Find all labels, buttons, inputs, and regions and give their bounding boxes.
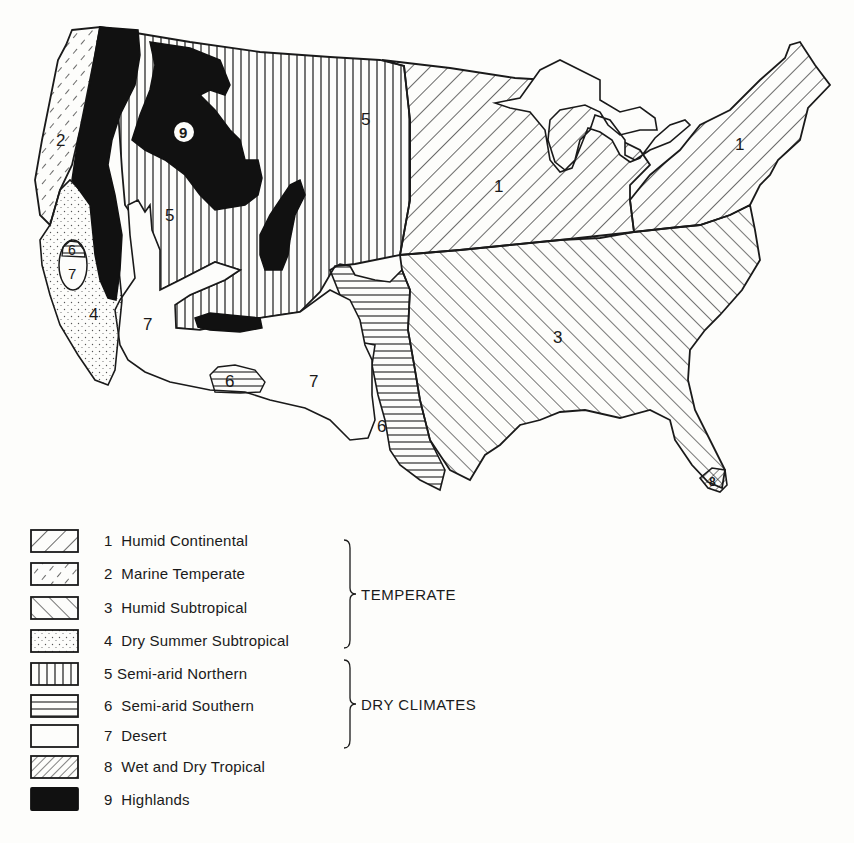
legend-label-semi-arid-southern: 6 Semi-arid Southern: [104, 697, 254, 714]
legend-label-humid-subtropical: 3 Humid Subtropical: [104, 599, 247, 616]
legend-label-dry-summer-subtropical: 4 Dry Summer Subtropical: [104, 632, 289, 649]
semi-arid-northern-swatch-icon: [30, 662, 79, 686]
legend-label-semi-arid-northern: 5 Semi-arid Northern: [104, 665, 247, 682]
label-semi-arid-northern-east: 5: [361, 110, 370, 129]
group-label-dry-climates: DRY CLIMATES: [361, 696, 476, 713]
label-desert-ca: 7: [68, 265, 76, 282]
label-desert-great-basin: 7: [143, 315, 152, 334]
temperate-brace-icon: [342, 538, 362, 650]
legend-item-humid-subtropical: [30, 597, 79, 619]
label-humid-continental-east: 1: [735, 135, 744, 154]
label-highlands: 9: [179, 124, 187, 141]
legend-item-humid-continental: [30, 530, 79, 552]
legend-label-wet-dry-tropical: 8 Wet and Dry Tropical: [104, 758, 265, 775]
legend-item-desert: [30, 725, 79, 747]
label-marine-temperate: 2: [56, 131, 65, 150]
legend-label-marine-temperate: 2 Marine Temperate: [104, 565, 245, 582]
label-semi-arid-northern-west: 5: [165, 206, 174, 225]
label-wet-dry-tropical: 8: [709, 475, 716, 489]
legend-item-dry-summer-subtropical: [30, 630, 79, 652]
region-humid-continental-west: [382, 60, 650, 255]
legend-label-humid-continental: 1 Humid Continental: [104, 532, 248, 549]
legend-item-semi-arid-southern: [30, 695, 79, 717]
dry-climates-brace-icon: [342, 658, 362, 750]
label-semi-arid-southern-az: 6: [225, 372, 234, 391]
legend-item-wet-dry-tropical: [30, 756, 79, 778]
highlands-swatch-icon: [30, 787, 79, 811]
humid-subtropical-swatch-icon: [30, 596, 79, 620]
desert-swatch-icon: [30, 724, 79, 748]
climate-map: 1 1 2 3 4 5 5 6 6 6 7 7 7 8 9: [0, 0, 854, 510]
legend-item-semi-arid-northern: [30, 663, 79, 685]
label-humid-continental-west: 1: [494, 177, 503, 196]
humid-continental-swatch-icon: [30, 529, 79, 553]
semi-arid-southern-swatch-icon: [30, 694, 79, 718]
legend-label-desert: 7 Desert: [104, 727, 167, 744]
marine-temperate-swatch-icon: [30, 562, 79, 586]
legend-item-highlands: [30, 788, 79, 810]
dry-summer-subtropical-swatch-icon: [30, 629, 79, 653]
label-semi-arid-southern-texas: 6: [377, 417, 386, 436]
label-desert-southwest: 7: [309, 372, 318, 391]
label-humid-subtropical: 3: [553, 328, 562, 347]
legend-item-marine-temperate: [30, 563, 79, 585]
legend-label-highlands: 9 Highlands: [104, 791, 190, 808]
label-dry-summer-subtropical: 4: [89, 305, 98, 324]
wet-dry-tropical-swatch-icon: [30, 755, 79, 779]
label-semi-arid-southern-ca: 6: [68, 242, 76, 258]
group-label-temperate: TEMPERATE: [361, 586, 456, 603]
